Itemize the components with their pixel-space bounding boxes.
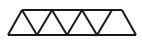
truss-diagram (0, 0, 142, 43)
diagram-background (0, 0, 142, 43)
truss-svg-canvas (0, 0, 142, 43)
